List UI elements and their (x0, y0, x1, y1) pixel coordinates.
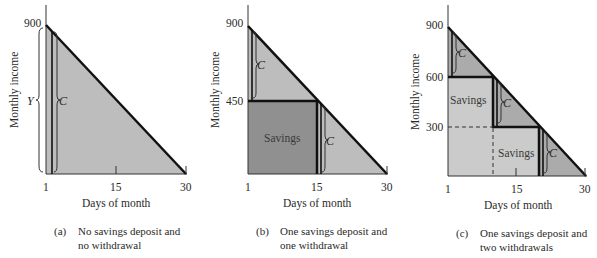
savings-label: Savings (264, 132, 301, 145)
brace-label-c: C (549, 146, 558, 160)
caption-line1: One savings deposit and (280, 225, 387, 237)
caption-c: (c)One savings deposit and two withdrawa… (456, 227, 587, 254)
y-tick-300: 300 (426, 121, 444, 133)
caption-line2: one withdrawal (256, 239, 387, 253)
caption-label: (a) (54, 225, 78, 239)
y-axis-label: Monthly income (209, 52, 222, 128)
y-brace-icon (36, 28, 43, 172)
caption-line1: No savings deposit and (78, 225, 180, 237)
x-tick-1: 1 (43, 181, 49, 193)
x-tick-1: 1 (245, 181, 251, 193)
x-tick-15: 15 (311, 181, 323, 193)
y-tick-900: 900 (24, 17, 42, 29)
brace-label-c: C (458, 46, 467, 60)
x-tick-30: 30 (579, 183, 591, 195)
panel-a: Y C 900 1 15 30 Days of month Monthly in… (8, 5, 192, 210)
caption-label: (b) (256, 225, 280, 239)
caption-line2: two withdrawals (456, 241, 587, 255)
y-tick-600: 600 (426, 71, 444, 83)
y-axis-label: Monthly income (409, 54, 422, 130)
x-axis-label: Days of month (82, 197, 151, 210)
caption-line2: no withdrawal (54, 239, 180, 253)
caption-line1: One savings deposit and (480, 227, 587, 239)
x-axis-label: Days of month (283, 197, 352, 210)
x-axis-label: Days of month (484, 199, 553, 212)
savings-label-2: Savings (498, 147, 535, 160)
brace-label-y: Y (27, 94, 35, 108)
x-tick-30: 30 (381, 181, 393, 193)
brace-label-c: C (257, 58, 266, 72)
caption-label: (c) (456, 227, 480, 241)
panel-c: C C C Savings Savings 900 600 300 1 15 3… (409, 5, 591, 212)
x-tick-15: 15 (110, 181, 122, 193)
x-tick-30: 30 (180, 181, 192, 193)
y-tick-900: 900 (226, 17, 244, 29)
brace-label-c: C (326, 134, 335, 148)
y-tick-900: 900 (426, 19, 444, 31)
caption-b: (b)One savings deposit and one withdrawa… (256, 225, 387, 252)
brace-label-c: C (503, 96, 512, 110)
x-tick-15: 15 (511, 183, 523, 195)
panel-b: C C Savings 900 450 1 15 30 Days of mont… (209, 5, 393, 210)
brace-label-c: C (59, 94, 68, 108)
y-tick-450: 450 (226, 95, 244, 107)
diagram-canvas: Y C 900 1 15 30 Days of month Monthly in… (0, 0, 597, 258)
caption-a: (a)No savings deposit and no withdrawal (54, 225, 180, 252)
y-axis-label: Monthly income (8, 52, 21, 128)
x-tick-1: 1 (445, 183, 451, 195)
savings-label-1: Savings (450, 94, 487, 107)
